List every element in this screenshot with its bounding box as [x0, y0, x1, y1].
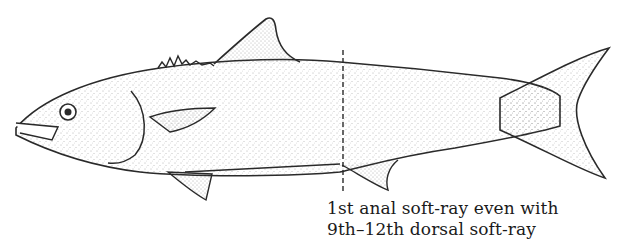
- pelvic-fin: [168, 172, 212, 200]
- annotation-caption: 1st anal soft-ray even with 9th–12th dor…: [327, 198, 558, 240]
- annotation-line-2: 9th–12th dorsal soft-ray: [327, 219, 558, 240]
- soft-dorsal-fin: [214, 18, 300, 64]
- pupil: [65, 109, 72, 116]
- anal-fin: [342, 160, 398, 190]
- annotation-line-1: 1st anal soft-ray even with: [327, 198, 558, 219]
- fish-body: [16, 60, 560, 176]
- caudal-fin: [500, 48, 609, 178]
